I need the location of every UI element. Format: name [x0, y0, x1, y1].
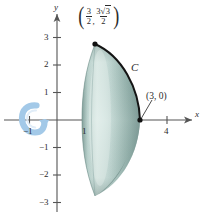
- coord-open-paren: (: [78, 6, 84, 27]
- x-axis-label: x: [195, 110, 199, 119]
- point-top-label: ( 3 2 , 3√3 2 ): [77, 6, 120, 27]
- y-tick-label--3: −3: [39, 198, 49, 207]
- rotation-arrow-head: [39, 120, 49, 127]
- figure-svg: [0, 0, 209, 217]
- solid-specular-band: [89, 50, 111, 186]
- curve-label-c: C: [131, 62, 138, 73]
- point-x-intercept-leader: [142, 100, 153, 118]
- y-tick-label--2: −2: [39, 170, 49, 179]
- figure-canvas: y x −1 1 4 3 2 1 −1 −2 −3 C (3, 0) ( 3 2…: [0, 0, 209, 217]
- coord-x-fraction: 3 2: [86, 7, 92, 26]
- radical-icon: √3: [101, 7, 111, 16]
- point-x-intercept-label: (3, 0): [146, 92, 167, 102]
- x-tick-label-4: 4: [164, 127, 169, 136]
- y-tick-label-3: 3: [44, 33, 49, 42]
- coord-y-radicand: 3: [105, 5, 110, 16]
- coord-y-fraction: 3√3 2: [95, 7, 111, 26]
- coord-y-numerator: 3√3: [95, 7, 111, 16]
- y-tick-label-2: 2: [44, 60, 49, 69]
- x-tick-label-1: 1: [82, 127, 87, 136]
- y-axis-label: y: [54, 3, 58, 12]
- coord-x-denominator: 2: [86, 16, 92, 26]
- y-tick-label-1: 1: [44, 88, 49, 97]
- point-top-marker: [92, 41, 97, 46]
- y-tick-label--1: −1: [39, 143, 49, 152]
- coord-x-numerator: 3: [86, 7, 92, 16]
- coord-y-denominator: 2: [100, 16, 106, 26]
- coord-close-paren: ): [113, 6, 119, 27]
- rotation-arrow-highlight: [27, 110, 36, 127]
- x-tick-label--1: −1: [23, 127, 33, 136]
